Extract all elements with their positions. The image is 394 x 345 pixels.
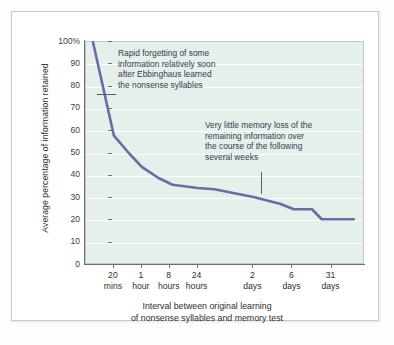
x-tick-mark-8-hours — [169, 264, 170, 268]
y-tick-mark-90 — [108, 63, 112, 64]
annotation-rapid-forgetting: Rapid forgetting of some information rel… — [118, 48, 215, 90]
x-axis-title-line-1: Interval between original learning — [52, 301, 362, 313]
annotation-little-memory-loss: Very little memory loss of the remaining… — [205, 120, 312, 162]
y-tick-mark-70 — [108, 108, 112, 109]
y-tick-mark-80 — [108, 86, 112, 87]
y-tick-label-40: 40 — [46, 170, 80, 179]
x-tick-mark-2-days — [252, 264, 253, 268]
y-tick-label-50: 50 — [46, 148, 80, 157]
x-tick-number: 24 — [174, 270, 220, 281]
x-axis-line — [84, 264, 365, 265]
x-tick-mark-31-days — [331, 264, 332, 268]
x-axis-title: Interval between original learning of no… — [52, 301, 362, 324]
x-tick-number: 31 — [308, 270, 354, 281]
y-tick-label-0: 0 — [46, 260, 80, 269]
x-tick-unit: days — [308, 281, 354, 292]
x-tick-unit: hours — [174, 281, 220, 292]
y-tick-label-80: 80 — [46, 81, 80, 90]
annotation-2-line-2: remaining information over — [205, 131, 312, 142]
y-tick-label-20: 20 — [46, 215, 80, 224]
annotation-2-line-3: the course of the following — [205, 141, 312, 152]
chart-card: 0102030405060708090100% Average percenta… — [11, 11, 379, 321]
y-tick-label-90: 90 — [46, 59, 80, 68]
y-axis-title: Average percentage of information retain… — [40, 43, 50, 253]
forgetting-curve-figure: 0102030405060708090100% Average percenta… — [0, 0, 394, 345]
annotation-1-line-1: Rapid forgetting of some — [118, 48, 215, 59]
y-tick-mark-20 — [108, 219, 112, 220]
annotation-1-line-3: after Ebbinghaus learned — [118, 69, 215, 80]
y-axis-line — [84, 40, 85, 265]
x-tick-mark-20-mins — [113, 264, 114, 268]
y-tick-label-10: 10 — [46, 237, 80, 246]
y-tick-mark-100 — [108, 41, 112, 42]
y-tick-label-60: 60 — [46, 126, 80, 135]
x-tick-mark-24-hours — [197, 264, 198, 268]
x-tick-mark-6-days — [291, 264, 292, 268]
annotation-2-line-1: Very little memory loss of the — [205, 120, 312, 131]
y-tick-label-100: 100% — [46, 37, 80, 46]
y-tick-mark-0 — [108, 264, 112, 265]
x-tick-label-24-hours: 24hours — [174, 270, 220, 291]
y-tick-mark-50 — [108, 153, 112, 154]
x-tick-mark-1-hour — [141, 264, 142, 268]
y-tick-mark-40 — [108, 175, 112, 176]
annotation-1-line-4: the nonsense syllables — [118, 80, 215, 91]
annotation-2-line-4: several weeks — [205, 152, 312, 163]
annotation-2-leader-line — [261, 172, 262, 194]
x-tick-label-31-days: 31days — [308, 270, 354, 291]
annotation-1-line-2: information relatively soon — [118, 59, 215, 70]
x-axis-title-line-2: of nonsense syllables and memory test — [52, 313, 362, 325]
y-tick-label-70: 70 — [46, 103, 80, 112]
y-tick-mark-30 — [108, 197, 112, 198]
y-tick-mark-60 — [108, 130, 112, 131]
annotation-1-leader-line — [97, 94, 116, 95]
y-tick-label-30: 30 — [46, 193, 80, 202]
y-tick-mark-10 — [108, 242, 112, 243]
